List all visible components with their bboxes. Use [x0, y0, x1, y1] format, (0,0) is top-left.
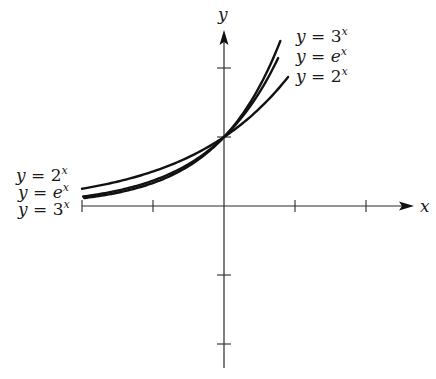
- y-axis-label: y: [217, 4, 228, 24]
- label-right-3x: y = 3x: [295, 25, 348, 46]
- label-right-2x: y = 2x: [295, 65, 348, 86]
- label-left-3x: y = 3x: [17, 198, 70, 219]
- exponential-functions-chart: x y y = 3x y = ex y = 2x y = 2x y = ex y…: [0, 0, 436, 379]
- label-right-ex: y = ex: [295, 45, 348, 66]
- x-axis-label: x: [420, 196, 430, 216]
- right-curve-labels: y = 3x y = ex y = 2x: [295, 25, 348, 86]
- curve-y-3-x: [84, 41, 280, 198]
- curve-y-e-x: [83, 58, 278, 197]
- curves: [82, 41, 288, 198]
- left-curve-labels: y = 2x y = ex y = 3x: [15, 164, 70, 219]
